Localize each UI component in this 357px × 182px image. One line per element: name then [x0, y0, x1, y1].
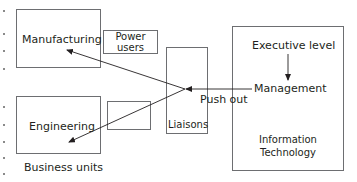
push-out-caption: Push out [200, 93, 248, 106]
power-users-label-line2: users [103, 42, 158, 54]
business-units-caption: Business units [24, 161, 103, 174]
unlabeled-box [107, 101, 151, 130]
it-label-line1: Information [232, 134, 344, 146]
edge-mark [3, 10, 5, 12]
edge-mark [3, 33, 5, 35]
liaisons-label: Liaisons [168, 119, 208, 131]
edge-mark [3, 157, 5, 159]
management-label: Management [254, 82, 326, 95]
executive-level-label: Executive level [252, 39, 335, 52]
edge-mark [3, 50, 5, 52]
manufacturing-label: Manufacturing [22, 33, 102, 46]
diagram-canvas: Manufacturing Power users Engineering Bu… [0, 0, 357, 182]
engineering-label: Engineering [29, 120, 95, 133]
edge-mark [3, 173, 5, 175]
edge-mark [3, 124, 5, 126]
edge-mark [3, 106, 5, 108]
it-label-line2: Technology [232, 147, 344, 159]
edge-mark [3, 68, 5, 70]
edge-mark [3, 141, 5, 143]
